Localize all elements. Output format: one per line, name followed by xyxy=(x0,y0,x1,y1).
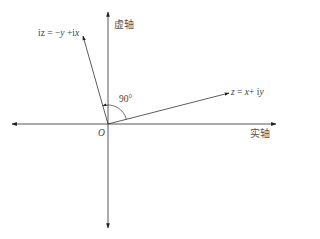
vector-iz-label: iz = −y +ix xyxy=(38,29,79,39)
vector-iz-label-iz: iz xyxy=(38,28,45,38)
real-axis-label: 实轴 xyxy=(250,129,270,139)
vector-iz-label-eq: = − xyxy=(45,28,60,38)
imaginary-axis-label: 虚轴 xyxy=(114,20,134,30)
vector-z-label-plus-i: + i xyxy=(249,87,259,97)
origin-label: O xyxy=(98,129,105,139)
vector-iz-label-x: x xyxy=(75,28,79,38)
vector-z-label-eq: = xyxy=(235,87,245,97)
vector-z-label: z = x+ iy xyxy=(231,88,264,98)
vector-z-label-y: y xyxy=(259,87,263,97)
vector-iz-label-plus-i: +i xyxy=(65,28,75,38)
angle-label: 90° xyxy=(119,95,132,105)
vector-iz xyxy=(83,36,108,124)
